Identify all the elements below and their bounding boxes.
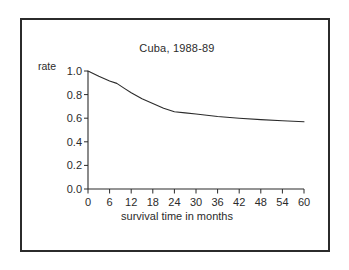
survival-rate-line <box>88 71 304 122</box>
screenshot-root: Cuba, 1988-89 rate survival time in mont… <box>0 0 349 270</box>
chart-plot-area <box>22 20 332 254</box>
chart-figure-frame: Cuba, 1988-89 rate survival time in mont… <box>20 18 330 252</box>
x-tick-marks <box>88 189 304 194</box>
y-tick-marks <box>84 71 88 189</box>
